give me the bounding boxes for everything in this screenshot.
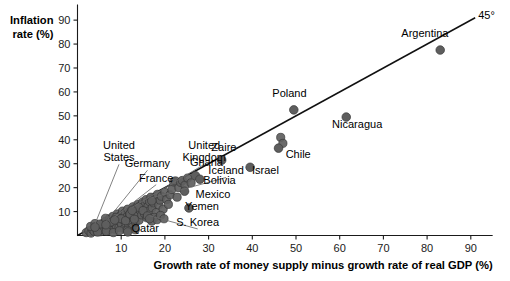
x-tick-label-20: 20 xyxy=(159,242,171,254)
x-tick-label-70: 70 xyxy=(377,242,389,254)
y-tick-label-50: 50 xyxy=(58,110,70,122)
point-label-zaire: Zaire xyxy=(211,141,236,153)
y-axis-title-line1: Inflation xyxy=(10,14,54,26)
x-tick-label-90: 90 xyxy=(465,242,477,254)
data-point xyxy=(173,193,181,201)
point-label-germany: Germany xyxy=(125,157,171,169)
data-point-poland xyxy=(290,106,299,115)
y-tick-label-90: 90 xyxy=(58,14,70,26)
reference-line-label: 45° xyxy=(478,9,495,21)
y-tick-label-40: 40 xyxy=(58,134,70,146)
point-label-yemen: Yemen xyxy=(185,200,219,212)
x-tick-label-10: 10 xyxy=(115,242,127,254)
x-axis-title: Growth rate of money supply minus growth… xyxy=(153,259,492,271)
point-label-ghana: Ghana xyxy=(190,156,224,168)
point-label-poland: Poland xyxy=(272,87,306,99)
y-tick-label-80: 80 xyxy=(58,38,70,50)
chart-figure: 102030405060708090102030405060708090 45°… xyxy=(0,0,510,281)
data-point xyxy=(115,227,123,235)
x-tick-label-80: 80 xyxy=(421,242,433,254)
data-point xyxy=(164,200,172,208)
point-label-argentina: Argentina xyxy=(401,27,449,39)
data-points-layer xyxy=(82,46,444,237)
point-label-united-states: United xyxy=(103,139,135,151)
point-label-qatar: Qatar xyxy=(131,222,159,234)
y-axis-title-line2: rate (%) xyxy=(12,28,53,40)
y-tick-label-30: 30 xyxy=(58,158,70,170)
y-tick-label-70: 70 xyxy=(58,62,70,74)
point-label-chile: Chile xyxy=(286,148,311,160)
point-label-bolivia: Bolivia xyxy=(203,174,236,186)
point-label-s-korea: S. Korea xyxy=(176,216,220,228)
x-tick-label-60: 60 xyxy=(334,242,346,254)
x-tick-label-40: 40 xyxy=(246,242,258,254)
point-label-israel: Israel xyxy=(252,164,279,176)
y-tick-label-20: 20 xyxy=(58,182,70,194)
data-point-argentina xyxy=(436,46,445,55)
point-label-nicaragua: Nicaragua xyxy=(332,118,383,130)
scatter-plot: 102030405060708090102030405060708090 45°… xyxy=(0,0,510,281)
x-tick-label-30: 30 xyxy=(202,242,214,254)
point-label-france: France xyxy=(139,172,173,184)
y-tick-label-10: 10 xyxy=(58,206,70,218)
point-label-mexico: Mexico xyxy=(196,188,231,200)
data-point-chile xyxy=(274,144,283,153)
x-tick-label-50: 50 xyxy=(290,242,302,254)
y-tick-label-60: 60 xyxy=(58,86,70,98)
